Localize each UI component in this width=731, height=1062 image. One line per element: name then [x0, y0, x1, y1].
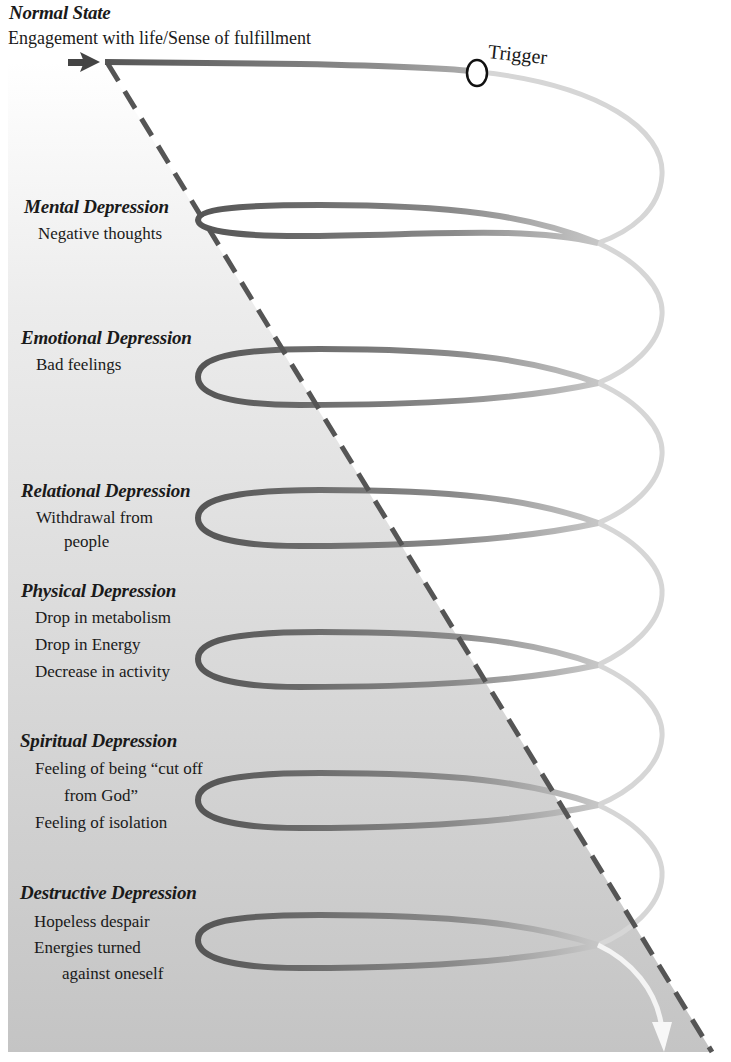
stage-line: Feeling of isolation	[35, 811, 167, 835]
stage-line: people	[64, 530, 109, 554]
stage-line: Hopeless despair	[34, 910, 150, 934]
stage-title-mental: Mental Depression	[24, 196, 169, 218]
normal-state-line	[105, 62, 480, 72]
stage-line: Withdrawal from	[36, 506, 153, 530]
stage-line: Energies turned	[34, 936, 141, 960]
stage-line: Drop in metabolism	[35, 606, 171, 630]
stage-line: Decrease in activity	[35, 660, 170, 684]
stage-line: from God”	[64, 784, 138, 808]
stage-line: Negative thoughts	[38, 222, 162, 246]
stage-title-physical: Physical Depression	[21, 580, 176, 602]
stage-line: Drop in Energy	[35, 633, 140, 657]
loop-mental	[198, 205, 598, 243]
trigger-marker-icon	[467, 60, 487, 86]
stage-title-emotional: Emotional Depression	[21, 327, 192, 349]
stage-title-destructive: Destructive Depression	[20, 882, 197, 904]
normal-state-title: Normal State	[9, 2, 111, 24]
stage-line: against oneself	[62, 962, 164, 986]
stage-line: Feeling of being “cut off	[35, 757, 203, 781]
normal-state-subtitle: Engagement with life/Sense of fulfillmen…	[8, 26, 311, 50]
stage-title-relational: Relational Depression	[21, 480, 190, 502]
stage-title-spiritual: Spiritual Depression	[20, 730, 177, 752]
stage-line: Bad feelings	[36, 353, 121, 377]
